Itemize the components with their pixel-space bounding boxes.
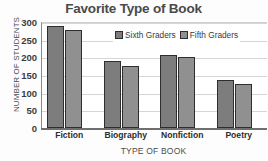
y-tick-label: 100	[4, 87, 37, 98]
bar[interactable]	[217, 80, 234, 128]
legend-swatch-icon	[115, 31, 123, 39]
bar[interactable]	[160, 55, 177, 128]
chart-legend: Sixth GradersFifth Graders	[113, 27, 240, 42]
x-tick-label: Nonfiction	[154, 130, 211, 140]
bar-chart: Favorite Type of Book NUMBER OF STUDENTS…	[0, 0, 267, 161]
x-axis-label: TYPE OF BOOK	[40, 146, 267, 156]
y-tick-label: 200	[4, 52, 37, 63]
legend-item[interactable]: Fifth Graders	[180, 30, 238, 40]
bar[interactable]	[122, 66, 139, 128]
x-tick-label: Fiction	[41, 130, 98, 140]
x-tick-label: Biography	[98, 130, 155, 140]
y-tick-label: 250	[4, 34, 37, 45]
bar[interactable]	[65, 30, 82, 128]
bar[interactable]	[235, 84, 252, 128]
legend-swatch-icon	[180, 31, 188, 39]
legend-label: Sixth Graders	[125, 30, 176, 40]
y-tick-label: 50	[4, 105, 37, 116]
bar[interactable]	[178, 57, 195, 128]
legend-label: Fifth Graders	[190, 30, 238, 40]
legend-item[interactable]: Sixth Graders	[115, 30, 176, 40]
x-tick-label: Poetry	[211, 130, 268, 140]
bar[interactable]	[47, 26, 64, 128]
y-tick-label: 0	[4, 123, 37, 134]
y-tick-label: 300	[4, 17, 37, 28]
y-tick-label: 150	[4, 70, 37, 81]
bar[interactable]	[104, 61, 121, 128]
bar-group	[47, 22, 83, 128]
